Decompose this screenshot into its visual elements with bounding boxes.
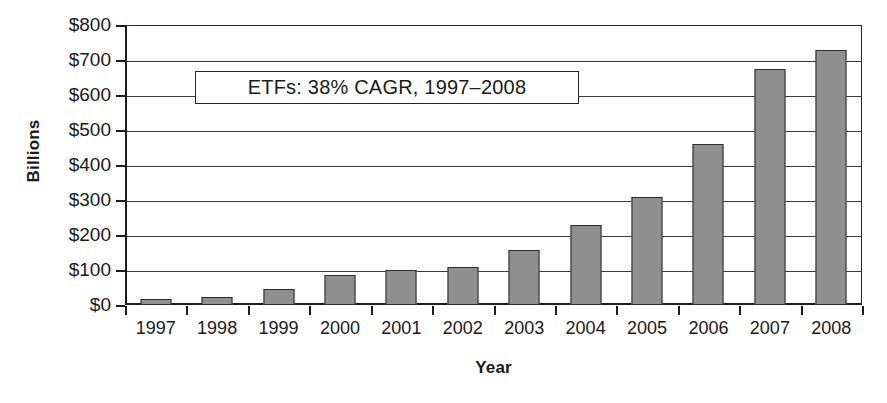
x-tick-mark — [616, 306, 618, 315]
bar-slot — [186, 25, 247, 305]
y-tick-mark — [116, 130, 125, 132]
x-tick-mark — [371, 306, 373, 315]
etf-assets-bar-chart: Billions Year $0$100$200$300$400$500$600… — [0, 0, 887, 403]
bar — [202, 297, 233, 305]
bar-slot — [616, 25, 677, 305]
y-tick-mark — [116, 305, 125, 307]
bar-slot — [432, 25, 493, 305]
bar — [386, 270, 417, 305]
y-tick-label: $400 — [1, 155, 111, 174]
bar-slot — [555, 25, 616, 305]
bar — [632, 197, 663, 306]
x-tick-mark — [555, 306, 557, 315]
x-tick-label: 2008 — [786, 318, 876, 338]
cagr-annotation-label: ETFs: 38% CAGR, 1997–2008 — [248, 76, 526, 99]
y-tick-mark — [116, 270, 125, 272]
y-tick-mark — [116, 165, 125, 167]
x-axis-title: Year — [125, 358, 862, 378]
y-tick-label: $600 — [1, 85, 111, 104]
bar — [140, 299, 171, 305]
bar-slot — [125, 25, 186, 305]
y-tick-label: $800 — [1, 15, 111, 34]
bar-slot — [739, 25, 800, 305]
bar-slot — [248, 25, 309, 305]
y-tick-mark — [116, 95, 125, 97]
x-tick-mark — [678, 306, 680, 315]
x-tick-mark — [801, 306, 803, 315]
bar — [693, 144, 724, 305]
x-tick-mark — [494, 306, 496, 315]
x-tick-mark — [739, 306, 741, 315]
y-tick-label: $700 — [1, 50, 111, 69]
x-tick-mark — [309, 306, 311, 315]
y-tick-label: $300 — [1, 190, 111, 209]
y-tick-label: $200 — [1, 225, 111, 244]
x-tick-mark — [862, 306, 864, 315]
bar-slot — [801, 25, 862, 305]
y-tick-mark — [116, 60, 125, 62]
bar — [447, 267, 478, 306]
y-tick-label: $0 — [1, 295, 111, 314]
y-tick-label: $500 — [1, 120, 111, 139]
bar — [509, 250, 540, 305]
x-tick-mark — [432, 306, 434, 315]
bar-slot — [309, 25, 370, 305]
bar — [816, 50, 847, 306]
x-tick-mark — [248, 306, 250, 315]
bar-slot — [494, 25, 555, 305]
x-tick-mark — [186, 306, 188, 315]
y-tick-mark — [116, 235, 125, 237]
y-tick-label: $100 — [1, 260, 111, 279]
bar — [754, 69, 785, 305]
y-tick-mark — [116, 200, 125, 202]
bar-slot — [678, 25, 739, 305]
bar — [263, 289, 294, 305]
bar — [570, 225, 601, 305]
cagr-annotation-box: ETFs: 38% CAGR, 1997–2008 — [195, 71, 579, 104]
bars-layer — [125, 25, 862, 305]
bar — [324, 275, 355, 305]
bar-slot — [371, 25, 432, 305]
x-tick-mark — [125, 306, 127, 315]
y-tick-mark — [116, 25, 125, 27]
